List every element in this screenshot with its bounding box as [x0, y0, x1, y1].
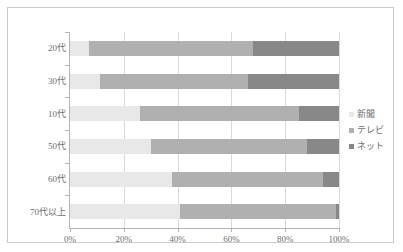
- chart-legend: 新聞テレビネット: [349, 106, 401, 154]
- x-axis-label: 20%: [116, 234, 133, 245]
- x-axis-tick: [231, 228, 232, 232]
- legend-item[interactable]: ネット: [349, 138, 401, 154]
- gridline-60: [231, 32, 232, 228]
- bar-row: [70, 106, 339, 121]
- y-axis-label: 60代: [48, 174, 66, 184]
- legend-label: 新聞: [357, 109, 375, 119]
- bar-segment: [70, 41, 89, 56]
- x-axis-tick: [178, 228, 179, 232]
- legend-label: ネット: [357, 141, 384, 151]
- bar-segment: [299, 106, 339, 121]
- bar-row: [70, 41, 339, 56]
- gridline-20: [124, 32, 125, 228]
- gridline-40: [178, 32, 179, 228]
- y-axis-tick: [65, 195, 69, 196]
- bar-segment: [70, 74, 100, 89]
- bar-row: [70, 204, 339, 219]
- bar-row: [70, 139, 339, 154]
- x-axis-tick: [124, 228, 125, 232]
- legend-item[interactable]: テレビ: [349, 122, 401, 138]
- bar-segment: [70, 204, 180, 219]
- legend-swatch-icon: [349, 112, 354, 117]
- plot-area: [70, 32, 339, 228]
- y-axis-label: 20代: [48, 43, 66, 53]
- bar-segment: [140, 106, 299, 121]
- y-axis-tick: [65, 32, 69, 33]
- bar-segment: [100, 74, 248, 89]
- y-axis-tick: [65, 163, 69, 164]
- legend-label: テレビ: [357, 125, 384, 135]
- bar-row: [70, 74, 339, 89]
- bar-segment: [248, 74, 339, 89]
- y-axis-tick: [65, 130, 69, 131]
- bar-segment: [151, 139, 307, 154]
- y-axis-label: 70代以上: [30, 207, 66, 217]
- y-axis-label: 50代: [48, 141, 66, 151]
- bar-segment: [70, 139, 151, 154]
- x-axis-line: [69, 228, 340, 229]
- legend-item[interactable]: 新聞: [349, 106, 401, 122]
- bar-segment: [336, 204, 339, 219]
- x-axis-label: 40%: [169, 234, 186, 245]
- x-axis-tick: [285, 228, 286, 232]
- bar-segment: [70, 106, 140, 121]
- y-axis-label: 10代: [48, 109, 66, 119]
- bar-segment: [253, 41, 339, 56]
- bar-segment: [323, 172, 339, 187]
- gridline-100: [339, 32, 340, 228]
- y-axis-tick: [65, 65, 69, 66]
- x-axis-tick: [70, 228, 71, 232]
- y-axis-labels: 20代30代10代50代60代70代以上: [8, 32, 66, 228]
- x-axis-label: 80%: [277, 234, 294, 245]
- bar-segment: [307, 139, 339, 154]
- x-axis-labels: 0%20%40%60%80%100%: [8, 234, 395, 248]
- x-axis-label: 60%: [223, 234, 240, 245]
- x-axis-tick: [339, 228, 340, 232]
- bar-segment: [180, 204, 336, 219]
- legend-swatch-icon: [349, 144, 354, 149]
- bar-segment: [172, 172, 323, 187]
- bar-segment: [89, 41, 253, 56]
- y-axis-label: 30代: [48, 76, 66, 86]
- x-axis-label: 100%: [329, 234, 350, 245]
- bar-row: [70, 172, 339, 187]
- legend-swatch-icon: [349, 128, 354, 133]
- bar-segment: [70, 172, 172, 187]
- gridline-80: [285, 32, 286, 228]
- chart-frame: 20代30代10代50代60代70代以上 0%20%40%60%80%100% …: [7, 7, 394, 243]
- y-axis-tick: [65, 97, 69, 98]
- x-axis-label: 0%: [64, 234, 76, 245]
